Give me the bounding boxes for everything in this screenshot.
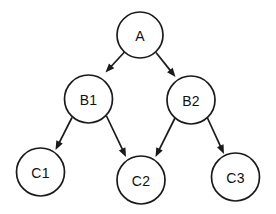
node-label-c1: C1 — [31, 165, 49, 181]
node-a[interactable]: A — [117, 12, 163, 58]
node-label-b2: B2 — [182, 93, 200, 109]
node-c3[interactable]: C3 — [212, 153, 260, 201]
node-c1[interactable]: C1 — [17, 148, 65, 196]
graph-diagram: AB1B2C1C2C3 — [0, 0, 276, 214]
node-c2[interactable]: C2 — [117, 156, 165, 204]
node-label-b1: B1 — [80, 92, 98, 108]
node-b1[interactable]: B1 — [65, 75, 113, 123]
node-label-c3: C3 — [226, 170, 244, 186]
node-label-c2: C2 — [132, 173, 150, 189]
node-label-a: A — [135, 28, 145, 44]
node-b2[interactable]: B2 — [167, 76, 215, 124]
